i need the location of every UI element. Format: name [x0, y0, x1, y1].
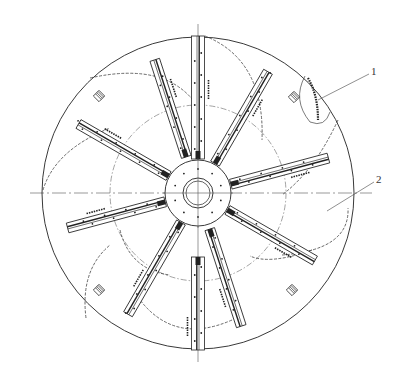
hub-bolt — [174, 185, 176, 187]
blade-rib — [78, 125, 168, 177]
dashed-arc — [85, 245, 110, 318]
blade-rib — [79, 123, 169, 175]
annotation-ticks — [291, 172, 310, 177]
blade-lower-right-steep — [201, 228, 246, 329]
hub-bolt — [174, 200, 176, 202]
vent-square-icon — [93, 90, 104, 101]
blade-upper-left-steep — [150, 57, 195, 158]
blade-rib — [68, 203, 166, 229]
bolt-hole — [194, 148, 196, 150]
bolt-hole — [194, 296, 196, 298]
bolt-hole — [200, 96, 202, 98]
rotor-drawing — [0, 0, 399, 377]
blade-outline — [205, 228, 246, 328]
bolt-hole — [194, 104, 196, 106]
callout-label-2: 2 — [376, 174, 382, 185]
blade-upper-right — [211, 68, 277, 168]
bolt-hole — [194, 274, 196, 276]
blade-lower-left — [120, 218, 186, 318]
callout-label-1: 1 — [371, 66, 377, 77]
blade-outline — [66, 197, 166, 233]
bolt-hole — [194, 318, 196, 320]
callout-leader-1 — [318, 74, 369, 100]
hub-bolt — [211, 212, 213, 214]
bolt-hole — [194, 340, 196, 342]
blade-right — [230, 153, 331, 193]
blade-rib — [214, 71, 267, 163]
hub-bolt — [220, 200, 222, 202]
dashed-arc — [140, 300, 232, 329]
bolt-hole — [200, 140, 202, 142]
hub-bolt — [211, 173, 213, 175]
blade-top — [192, 36, 209, 159]
blade-rib — [227, 211, 314, 262]
bolt-hole — [200, 74, 202, 76]
hub-bolt — [183, 212, 185, 214]
bolt-hole — [194, 126, 196, 128]
bolt-hole — [200, 266, 202, 268]
bolt-hole — [200, 288, 202, 290]
blade-rib — [127, 222, 180, 314]
vent-square-icon — [288, 91, 299, 102]
blade-left — [65, 193, 166, 233]
callout-leader-2 — [327, 182, 374, 211]
blade-outline — [230, 153, 330, 189]
part-1-outline — [300, 76, 330, 124]
blade-outline — [192, 36, 205, 159]
hub-bolt — [183, 173, 185, 175]
vent-square-icon — [286, 284, 297, 295]
vent-square-icon — [93, 284, 104, 295]
blade-clamp — [196, 151, 201, 159]
dashed-arc — [90, 73, 200, 110]
annotation-ticks — [86, 209, 105, 214]
bolt-hole — [200, 332, 202, 334]
hub-bolt — [220, 185, 222, 187]
blade-bottom — [188, 257, 205, 350]
blade-rib — [209, 230, 241, 327]
bolt-hole — [194, 82, 196, 84]
blade-rib — [67, 201, 165, 227]
blade-rib — [216, 72, 269, 164]
blade-rib — [154, 60, 186, 157]
blade-clamp — [196, 257, 201, 265]
bolt-hole — [200, 310, 202, 312]
blade-rib — [231, 157, 329, 183]
bolt-hole — [194, 60, 196, 62]
blade-rib — [129, 223, 182, 315]
bolt-hole — [77, 120, 79, 122]
blade-rib — [211, 229, 243, 326]
bolt-hole — [200, 118, 202, 120]
hub — [163, 158, 233, 228]
blade-rib — [156, 59, 188, 156]
blade-outline — [192, 257, 205, 350]
blade-lower-right — [223, 206, 317, 269]
bolt-hole — [200, 52, 202, 54]
blade-rib — [228, 209, 315, 260]
blade-outline — [150, 58, 191, 158]
blade-upper-left — [73, 115, 173, 181]
blade-rib — [231, 159, 329, 185]
